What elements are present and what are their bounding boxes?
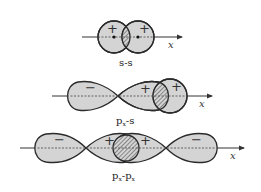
panel-label: s-s bbox=[119, 57, 133, 68]
panel-s-s: + + x s-s bbox=[82, 21, 182, 68]
phase-sign: − bbox=[54, 132, 65, 147]
phase-sign: + bbox=[140, 133, 151, 148]
phase-sign: + bbox=[104, 133, 115, 148]
phase-sign: − bbox=[85, 80, 96, 95]
phase-sign: + bbox=[107, 21, 118, 36]
panel-px-s: − + + x px-s bbox=[52, 79, 212, 127]
axis-label: x bbox=[230, 150, 236, 161]
phase-sign: + bbox=[140, 81, 151, 96]
axis-label: x bbox=[168, 39, 174, 50]
panel-label: px-px bbox=[112, 170, 136, 182]
phase-sign: − bbox=[191, 132, 202, 147]
phase-sign: + bbox=[139, 21, 150, 36]
panel-px-px: − + + − x px-px bbox=[20, 132, 244, 182]
orbital-overlap-diagram: + + x s-s − + + x px-s − + + − x px-px bbox=[0, 0, 261, 192]
phase-sign: + bbox=[171, 79, 182, 94]
axis-label: x bbox=[199, 98, 205, 109]
panel-label: px-s bbox=[116, 115, 134, 127]
